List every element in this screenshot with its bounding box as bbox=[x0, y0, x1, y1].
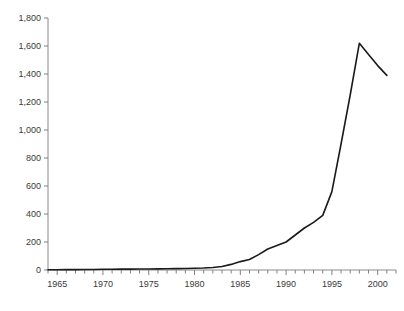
y-axis-tick-label: 1,800 bbox=[18, 13, 41, 23]
y-axis-tick-label: 600 bbox=[26, 181, 41, 191]
y-axis-tick-label: 200 bbox=[26, 237, 41, 247]
y-axis-tick-label: 0 bbox=[36, 265, 41, 275]
y-axis-tick-label: 800 bbox=[26, 153, 41, 163]
chart-container: 02004006008001,0001,2001,4001,6001,800 1… bbox=[0, 0, 404, 311]
line-chart-plot bbox=[0, 0, 404, 311]
y-axis-tick-label: 1,400 bbox=[18, 69, 41, 79]
y-axis-tick-label: 400 bbox=[26, 209, 41, 219]
y-axis-tick-label: 1,600 bbox=[18, 41, 41, 51]
x-axis-tick-label: 2000 bbox=[368, 279, 388, 289]
x-axis-tick-label: 1980 bbox=[185, 279, 205, 289]
x-axis-tick-label: 1985 bbox=[230, 279, 250, 289]
x-axis-ticks bbox=[48, 270, 396, 275]
x-axis-tick-label: 1995 bbox=[322, 279, 342, 289]
axes-group bbox=[44, 18, 396, 275]
y-axis-tick-label: 1,000 bbox=[18, 125, 41, 135]
y-axis-ticks bbox=[44, 18, 48, 270]
x-axis-tick-label: 1975 bbox=[139, 279, 159, 289]
x-axis-tick-label: 1990 bbox=[276, 279, 296, 289]
y-axis-tick-label: 1,200 bbox=[18, 97, 41, 107]
x-axis-tick-label: 1965 bbox=[47, 279, 67, 289]
data-series-line bbox=[48, 43, 387, 270]
x-axis-tick-label: 1970 bbox=[93, 279, 113, 289]
